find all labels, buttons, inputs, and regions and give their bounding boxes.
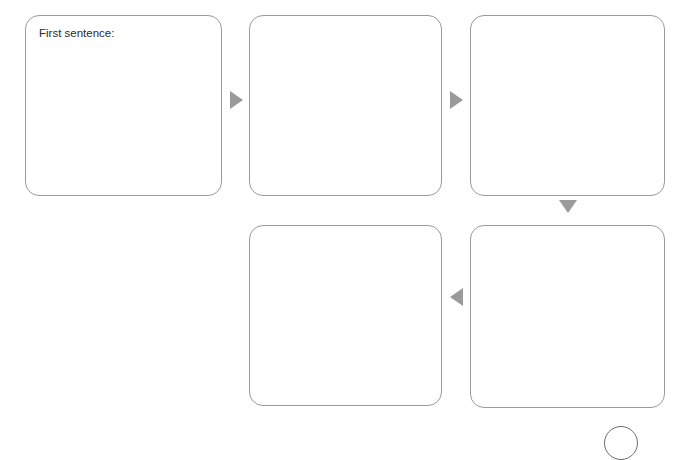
- arrow-right-icon: [450, 91, 463, 109]
- circle-mark-icon: [604, 426, 638, 460]
- arrow-down-icon: [559, 200, 577, 213]
- arrow-left-icon: [450, 288, 463, 306]
- storyboard-panel-2[interactable]: [249, 15, 442, 196]
- storyboard-panel-1-label: First sentence:: [39, 26, 211, 41]
- arrow-right-icon: [230, 91, 243, 109]
- storyboard-panel-3[interactable]: [470, 15, 665, 196]
- storyboard-panel-5[interactable]: [470, 225, 665, 408]
- storyboard-panel-1[interactable]: First sentence:: [25, 15, 222, 196]
- storyboard-panel-4[interactable]: [249, 225, 442, 406]
